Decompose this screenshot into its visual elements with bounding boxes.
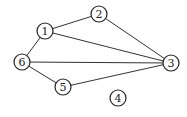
- node-6: 6: [14, 54, 30, 70]
- graph-diagram: 123456: [0, 0, 187, 117]
- node-label: 4: [115, 92, 122, 105]
- nodes-group: 123456: [14, 6, 179, 106]
- edge-1-3: [45, 31, 171, 63]
- edge-2-3: [99, 14, 171, 63]
- node-label: 5: [60, 81, 67, 94]
- node-label: 3: [168, 57, 175, 70]
- node-5: 5: [55, 79, 71, 95]
- node-label: 1: [42, 25, 49, 38]
- node-label: 6: [19, 56, 26, 69]
- node-2: 2: [91, 6, 107, 22]
- edge-6-3: [22, 62, 171, 63]
- node-1: 1: [37, 23, 53, 39]
- node-label: 2: [96, 8, 103, 21]
- edge-5-3: [63, 63, 171, 87]
- node-3: 3: [163, 55, 179, 71]
- node-4: 4: [110, 90, 126, 106]
